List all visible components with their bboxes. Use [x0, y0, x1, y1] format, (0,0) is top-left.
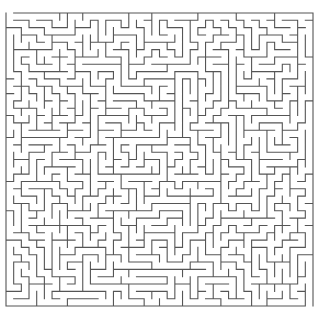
maze-canvas	[0, 0, 320, 309]
maze-walls	[6, 13, 313, 306]
maze-image	[0, 0, 320, 309]
